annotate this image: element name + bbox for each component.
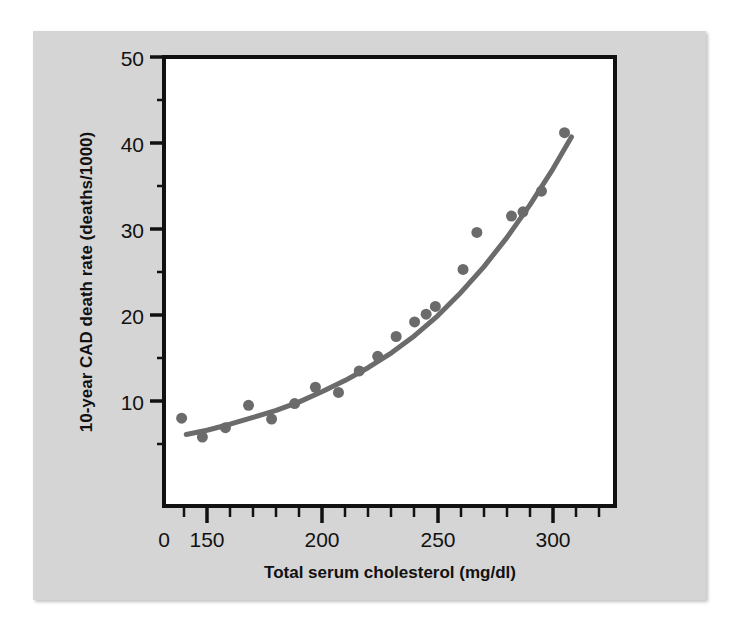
x-tick-labels: 0 150 200 250 300 — [158, 528, 570, 551]
scatter-chart: 50 40 30 20 10 — [0, 0, 746, 635]
x-tick-label: 150 — [189, 528, 224, 551]
data-point — [518, 206, 529, 217]
x-tick-label-origin: 0 — [158, 528, 170, 551]
data-point — [354, 365, 365, 376]
data-point — [333, 387, 344, 398]
y-axis-ticks — [150, 57, 164, 401]
x-axis-title: Total serum cholesterol (mg/dl) — [264, 563, 516, 582]
y-tick-label: 10 — [121, 391, 144, 414]
y-tick-labels: 50 40 30 20 10 — [121, 47, 144, 414]
data-point — [391, 331, 402, 342]
data-point — [289, 398, 300, 409]
data-point — [176, 413, 187, 424]
plot-area — [164, 57, 615, 506]
y-tick-label: 20 — [121, 305, 144, 328]
data-point — [559, 127, 570, 138]
data-point — [197, 432, 208, 443]
data-point — [458, 264, 469, 275]
y-tick-label: 50 — [121, 47, 144, 70]
data-point — [372, 351, 383, 362]
data-point — [310, 382, 321, 393]
y-axis-title: 10-year CAD death rate (deaths/1000) — [77, 132, 96, 432]
y-tick-label: 40 — [121, 133, 144, 156]
data-point — [506, 211, 517, 222]
data-point — [220, 422, 231, 433]
data-point — [471, 227, 482, 238]
data-point — [266, 414, 277, 425]
x-axis-ticks — [207, 506, 553, 523]
y-tick-label: 30 — [121, 219, 144, 242]
figure-root: 50 40 30 20 10 — [0, 0, 746, 635]
data-point — [430, 301, 441, 312]
data-point — [536, 186, 547, 197]
x-tick-label: 200 — [304, 528, 339, 551]
data-point — [243, 400, 254, 411]
data-point — [421, 309, 432, 320]
x-tick-label: 300 — [535, 528, 570, 551]
x-tick-label: 250 — [420, 528, 455, 551]
data-point — [409, 316, 420, 327]
